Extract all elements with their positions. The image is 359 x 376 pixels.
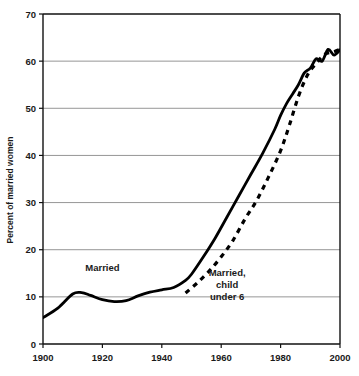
y-tick-label-0: 0 bbox=[31, 339, 36, 350]
x-tick-label-1960: 1960 bbox=[211, 352, 232, 363]
x-tick-label-1980: 1980 bbox=[270, 352, 291, 363]
line-chart: 010203040506070 190019201940196019802000… bbox=[0, 0, 359, 376]
married-child-under-6-label-line-2: under 6 bbox=[210, 291, 244, 302]
y-tick-label-40: 40 bbox=[25, 150, 36, 161]
y-tick-label-10: 10 bbox=[25, 291, 36, 302]
married-child-under-6-label-line-1: child bbox=[216, 279, 238, 290]
x-tick-label-1920: 1920 bbox=[92, 352, 113, 363]
x-tick-label-2000: 2000 bbox=[329, 352, 350, 363]
y-tick-label-60: 60 bbox=[25, 56, 36, 67]
chart-container: 010203040506070 190019201940196019802000… bbox=[0, 0, 359, 376]
y-axis-title-text: Percent of married women bbox=[5, 137, 15, 244]
married-label-line-0: Married bbox=[85, 262, 120, 273]
y-tick-label-70: 70 bbox=[25, 9, 36, 20]
y-tick-label-20: 20 bbox=[25, 244, 36, 255]
x-tick-label-1940: 1940 bbox=[151, 352, 172, 363]
y-tick-label-50: 50 bbox=[25, 103, 36, 114]
married-child-under-6-label-line-0: Married, bbox=[209, 267, 246, 278]
married-label: Married bbox=[85, 262, 120, 273]
x-axis-tick-labels: 190019201940196019802000 bbox=[32, 352, 350, 363]
y-axis-tick-labels: 010203040506070 bbox=[25, 9, 36, 350]
y-tick-label-30: 30 bbox=[25, 197, 36, 208]
y-axis-title: Percent of married women bbox=[5, 137, 15, 244]
x-tick-label-1900: 1900 bbox=[32, 352, 53, 363]
